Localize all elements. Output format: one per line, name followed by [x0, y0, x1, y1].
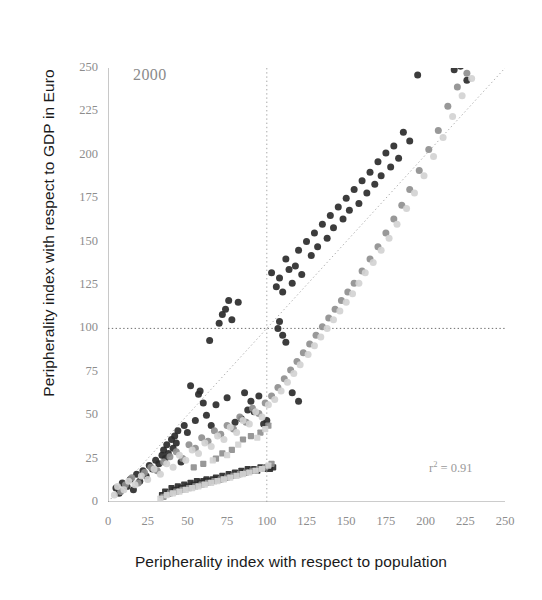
data-point [233, 429, 240, 436]
data-point [259, 413, 266, 420]
data-point [370, 259, 377, 266]
data-point [278, 387, 285, 394]
y-tick-label: 150 [56, 234, 98, 249]
data-point [163, 441, 170, 448]
y-tick-label: 0 [56, 494, 98, 509]
data-point [430, 153, 437, 160]
data-point [144, 476, 151, 483]
data-point [157, 495, 163, 501]
data-point [421, 172, 428, 179]
data-point [184, 429, 191, 436]
data-point [164, 492, 170, 498]
data-point [367, 169, 374, 176]
data-point [403, 205, 410, 212]
data-point [176, 488, 182, 494]
data-point [317, 334, 324, 341]
data-point [449, 113, 456, 120]
data-point [451, 68, 458, 73]
data-point [378, 247, 385, 254]
data-point [378, 172, 385, 179]
y-tick-label: 100 [56, 320, 98, 335]
data-point [252, 408, 259, 415]
data-point [359, 177, 366, 184]
data-point [276, 275, 283, 282]
data-point [303, 238, 310, 245]
data-point [220, 436, 227, 443]
data-point [371, 181, 378, 188]
data-point [319, 221, 326, 228]
data-point [435, 127, 442, 134]
data-point [202, 482, 208, 488]
data-point [336, 308, 343, 315]
data-point [212, 401, 219, 408]
data-point [235, 442, 241, 448]
data-point [227, 424, 234, 431]
data-point [343, 195, 350, 202]
data-point [189, 446, 196, 453]
y-tick-label: 175 [56, 190, 98, 205]
data-point [189, 485, 195, 491]
data-point [111, 492, 118, 499]
y-tick-label: 50 [56, 407, 98, 422]
data-point [240, 471, 246, 477]
data-point [174, 427, 181, 434]
data-point [268, 269, 275, 276]
data-point [279, 288, 286, 295]
data-point [259, 466, 265, 472]
data-point [254, 435, 260, 441]
data-point [125, 478, 132, 485]
y-tick-label: 75 [56, 364, 98, 379]
data-point [265, 462, 271, 468]
data-point [221, 476, 227, 482]
data-point [463, 70, 470, 77]
data-point [349, 290, 356, 297]
data-point [208, 443, 215, 450]
data-point [363, 189, 370, 196]
data-point [355, 200, 362, 207]
data-point [343, 299, 350, 306]
data-point [187, 382, 194, 389]
identity-line [108, 68, 505, 502]
data-point [468, 75, 475, 82]
data-point [444, 103, 451, 110]
data-point [182, 457, 189, 464]
data-point [157, 471, 164, 478]
y-tick-label: 125 [56, 277, 98, 292]
data-point [394, 221, 401, 228]
data-point [324, 235, 331, 242]
data-point [390, 143, 397, 150]
data-point [400, 129, 407, 136]
plot-area [108, 68, 505, 502]
data-point [440, 134, 447, 141]
data-point [457, 68, 464, 70]
data-point [173, 439, 180, 446]
data-point [246, 420, 253, 427]
data-point [176, 452, 183, 459]
data-point [200, 461, 206, 467]
data-point [295, 398, 302, 405]
data-point [151, 466, 158, 473]
data-point [166, 453, 173, 460]
data-point [131, 481, 138, 488]
data-point [271, 396, 278, 403]
data-point [311, 229, 318, 236]
y-tick-label: 225 [56, 103, 98, 118]
y-tick-label: 25 [56, 451, 98, 466]
data-point [395, 155, 402, 162]
data-point [197, 387, 204, 394]
x-tick-label: 250 [482, 514, 528, 529]
data-point [170, 490, 176, 496]
data-point [214, 478, 220, 484]
y-tick-label: 200 [56, 147, 98, 162]
data-point [327, 212, 334, 219]
data-point [414, 71, 421, 78]
data-point [289, 389, 296, 396]
data-point [235, 299, 242, 306]
data-point [201, 439, 208, 446]
data-point [411, 189, 418, 196]
data-point [228, 316, 235, 323]
plot-svg [108, 68, 505, 502]
data-point [305, 351, 312, 358]
data-point [289, 280, 296, 287]
data-point [282, 255, 289, 262]
